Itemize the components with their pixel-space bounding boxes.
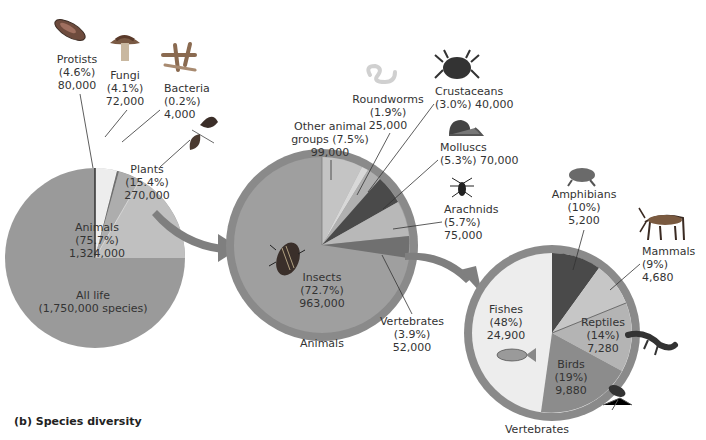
svg-text:Plants: Plants <box>130 163 164 176</box>
svg-text:(3.0%) 40,000: (3.0%) 40,000 <box>435 98 514 111</box>
svg-text:Insects: Insects <box>303 271 342 284</box>
leaf-icon <box>190 117 218 150</box>
mushroom-icon <box>110 37 140 62</box>
label-animals-title: Animals <box>300 337 344 350</box>
svg-text:(4.1%): (4.1%) <box>107 82 144 95</box>
species-diversity-diagram: Protists (4.6%) 80,000 Fungi (4.1%) 72,0… <box>0 0 706 440</box>
svg-text:963,000: 963,000 <box>299 297 345 310</box>
gazelle-icon <box>639 208 684 240</box>
label-protists: Protists (4.6%) 80,000 <box>57 53 98 92</box>
svg-text:(3.9%): (3.9%) <box>394 328 431 341</box>
svg-text:Other animal: Other animal <box>294 120 366 133</box>
svg-text:(15.4%): (15.4%) <box>125 176 169 189</box>
svg-text:Animals: Animals <box>75 221 119 234</box>
svg-text:(1.9%): (1.9%) <box>370 106 407 119</box>
svg-text:Birds: Birds <box>557 358 585 371</box>
svg-text:9,880: 9,880 <box>555 384 587 397</box>
svg-text:Roundworms: Roundworms <box>352 93 424 106</box>
figure-caption: (b) Species diversity <box>14 415 142 428</box>
svg-text:(72.7%): (72.7%) <box>300 284 344 297</box>
svg-text:(0.2%): (0.2%) <box>164 95 201 108</box>
svg-text:Arachnids: Arachnids <box>444 203 499 216</box>
svg-text:Bacteria: Bacteria <box>164 82 210 95</box>
svg-text:Fishes: Fishes <box>489 303 523 316</box>
svg-text:5,200: 5,200 <box>568 214 600 227</box>
spider-icon <box>450 178 474 197</box>
svg-text:24,900: 24,900 <box>487 329 526 342</box>
svg-text:(5.7%): (5.7%) <box>444 216 481 229</box>
svg-text:(1,750,000 species): (1,750,000 species) <box>38 302 147 315</box>
svg-text:270,000: 270,000 <box>124 189 170 202</box>
label-crustaceans: Crustaceans (3.0%) 40,000 <box>435 85 514 111</box>
label-arachnids: Arachnids (5.7%) 75,000 <box>444 203 499 242</box>
label-fishes: Fishes (48%) 24,900 <box>487 303 526 342</box>
svg-text:72,000: 72,000 <box>106 95 145 108</box>
roundworm-icon <box>368 66 395 82</box>
svg-text:(5.3%) 70,000: (5.3%) 70,000 <box>440 154 519 167</box>
svg-text:(10%): (10%) <box>567 201 600 214</box>
label-amphibians: Amphibians (10%) 5,200 <box>552 188 617 227</box>
svg-text:4,000: 4,000 <box>164 108 196 121</box>
svg-text:(14%): (14%) <box>586 329 619 342</box>
svg-text:80,000: 80,000 <box>58 79 97 92</box>
svg-text:groups (7.5%): groups (7.5%) <box>291 133 369 146</box>
svg-text:Protists: Protists <box>57 53 98 66</box>
svg-text:1,324,000: 1,324,000 <box>69 247 125 260</box>
label-vertebrates-slice: Vertebrates (3.9%) 52,000 <box>380 315 444 354</box>
snail-icon <box>449 120 482 135</box>
arrow-animals-to-vertebrates <box>405 253 482 294</box>
label-birds: Birds (19%) 9,880 <box>554 358 587 397</box>
svg-text:4,680: 4,680 <box>642 271 674 284</box>
svg-text:52,000: 52,000 <box>393 341 432 354</box>
svg-text:Amphibians: Amphibians <box>552 188 617 201</box>
label-vertebrates-title: Vertebrates <box>505 423 569 436</box>
frog-icon <box>568 168 595 186</box>
bacteria-icon <box>163 44 195 70</box>
crab-icon <box>435 50 479 79</box>
svg-text:Mammals: Mammals <box>642 245 695 258</box>
label-mammals: Mammals (9%) 4,680 <box>642 245 695 284</box>
label-molluscs: Molluscs (5.3%) 70,000 <box>440 141 519 167</box>
svg-text:(4.6%): (4.6%) <box>59 66 96 79</box>
svg-text:25,000: 25,000 <box>369 119 408 132</box>
svg-text:(9%): (9%) <box>642 258 668 271</box>
label-animals: Animals (75.7%) 1,324,000 <box>69 221 125 260</box>
svg-text:Crustaceans: Crustaceans <box>435 85 503 98</box>
label-bacteria: Bacteria (0.2%) 4,000 <box>164 82 210 121</box>
label-plants: Plants (15.4%) 270,000 <box>124 163 170 202</box>
animals-pie <box>226 149 418 341</box>
svg-text:Molluscs: Molluscs <box>440 141 487 154</box>
svg-text:99,000: 99,000 <box>311 146 350 159</box>
svg-text:All life: All life <box>76 289 110 302</box>
protist-icon <box>52 15 88 44</box>
svg-text:Reptiles: Reptiles <box>581 316 625 329</box>
svg-text:7,280: 7,280 <box>587 342 619 355</box>
svg-text:(19%): (19%) <box>554 371 587 384</box>
svg-text:75,000: 75,000 <box>444 229 483 242</box>
label-reptiles: Reptiles (14%) 7,280 <box>581 316 625 355</box>
label-insects: Insects (72.7%) 963,000 <box>299 271 345 310</box>
svg-text:(75.7%): (75.7%) <box>75 234 119 247</box>
svg-text:(48%): (48%) <box>489 316 522 329</box>
svg-text:Vertebrates: Vertebrates <box>380 315 444 328</box>
label-fungi: Fungi (4.1%) 72,000 <box>106 69 145 108</box>
svg-text:Fungi: Fungi <box>110 69 140 82</box>
